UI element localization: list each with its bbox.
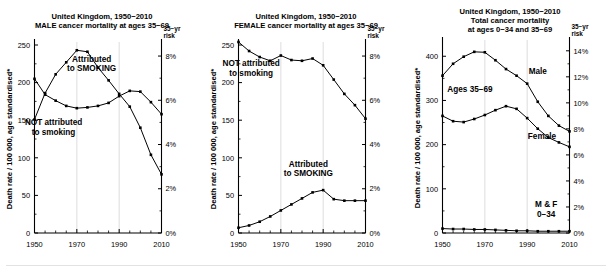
y-tick-label: 50 (22, 191, 30, 200)
data-point (364, 117, 367, 120)
data-point (462, 55, 465, 58)
data-point (526, 82, 529, 85)
right-tick-label: 6% (166, 96, 177, 105)
x-tick-label: 2010 (153, 240, 169, 249)
right-tick-label: 10% (574, 99, 589, 108)
data-point (441, 227, 444, 230)
chart-svg-total: 010020030040019501970199020100%2%4%6%8%1… (408, 0, 612, 271)
y-tick-label: 200 (18, 78, 30, 87)
data-point (332, 198, 335, 201)
data-point (526, 229, 529, 232)
y-tick-label: 300 (426, 96, 438, 105)
data-point (462, 228, 465, 231)
data-point (515, 229, 518, 232)
annotation-label: Attributed (72, 55, 111, 64)
data-point (484, 228, 487, 231)
data-point (536, 100, 539, 103)
y-tick-label: 400 (426, 52, 438, 61)
data-point (150, 101, 153, 104)
annotation-label: NOT attributed (223, 59, 280, 68)
data-point (558, 124, 561, 127)
series-line-1 (35, 79, 162, 114)
data-point (54, 73, 57, 76)
right-axis-title-line2: risk (164, 32, 176, 39)
data-point (86, 50, 89, 53)
data-point (150, 153, 153, 156)
right-tick-label: 8% (166, 52, 177, 61)
data-point (558, 230, 561, 233)
chart-panel-male: United Kingdom, 1950−2010 MALE cancer mo… (0, 0, 204, 271)
data-point (515, 74, 518, 77)
right-tick-label: 4% (574, 177, 585, 186)
right-tick-label: 2% (574, 203, 585, 212)
right-axis-title-line2: risk (572, 30, 584, 37)
data-point (160, 173, 163, 176)
annotation-label: Female (528, 132, 557, 141)
data-point (76, 49, 79, 52)
data-point (322, 64, 325, 67)
data-point (301, 59, 304, 62)
right-tick-label: 4% (166, 140, 177, 149)
data-point (322, 189, 325, 192)
footer-divider (6, 265, 606, 266)
data-point (452, 120, 455, 123)
data-point (452, 228, 455, 231)
y-axis-title: Death rate / 100 000, age standardised* (209, 69, 218, 210)
right-tick-label: 2% (370, 184, 381, 193)
data-point (139, 90, 142, 93)
annotation-label: Attributed (289, 160, 328, 169)
annotation-label: to SMOKING (284, 169, 333, 178)
data-point (441, 115, 444, 118)
data-point (107, 102, 110, 105)
chart-panel-female: United Kingdom, 1950−2010 FEMALE cancer … (204, 0, 408, 271)
y-tick-label: 100 (18, 154, 30, 163)
x-tick-label: 2010 (357, 240, 373, 249)
annotation-label: NOT attributed (25, 118, 82, 127)
data-point (86, 106, 89, 109)
data-point (505, 105, 508, 108)
data-point (54, 99, 57, 102)
y-tick-label: 100 (222, 154, 234, 163)
data-point (515, 108, 518, 111)
data-point (280, 209, 283, 212)
x-tick-label: 1990 (519, 240, 535, 249)
y-tick-label: 250 (18, 41, 30, 50)
data-point (301, 197, 304, 200)
right-tick-label: 8% (370, 52, 381, 61)
data-point (568, 230, 571, 233)
y-axis-title: Death rate / 100 000, age standardised* (413, 68, 422, 209)
x-tick-label: 1950 (434, 240, 450, 249)
y-tick-label: 250 (222, 41, 234, 50)
data-point (505, 229, 508, 232)
data-point (462, 121, 465, 124)
data-point (139, 126, 142, 129)
data-point (494, 59, 497, 62)
annotation-label: Male (529, 67, 548, 76)
chart-svg-male: 05010015020025019501970199020100%2%4%6%8… (0, 0, 204, 271)
x-tick-label: 1990 (315, 240, 331, 249)
data-point (280, 54, 283, 57)
data-point (343, 199, 346, 202)
data-point (558, 141, 561, 144)
right-tick-label: 4% (370, 140, 381, 149)
x-tick-label: 1970 (477, 240, 493, 249)
data-point (505, 68, 508, 71)
data-point (343, 93, 346, 96)
data-point (258, 220, 261, 223)
series-line-1 (239, 190, 366, 228)
data-point (311, 57, 314, 60)
data-point (258, 56, 261, 59)
right-tick-label: 8% (574, 125, 585, 134)
data-point (237, 226, 240, 229)
data-point (97, 105, 100, 108)
data-point (473, 118, 476, 121)
data-point (473, 51, 476, 54)
y-axis-title: Death rate / 100 000, age standardised* (5, 69, 14, 210)
y-tick-label: 0 (26, 229, 30, 238)
x-tick-label: 1970 (69, 240, 85, 249)
data-point (332, 78, 335, 81)
series-line-0 (239, 42, 366, 119)
data-point (441, 74, 444, 77)
annotation-label: to smoking (32, 128, 76, 137)
data-point (364, 199, 367, 202)
